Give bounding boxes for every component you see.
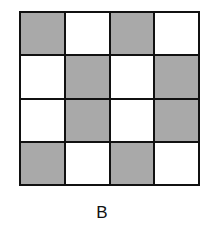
empty-cell	[155, 143, 198, 184]
empty-cell	[111, 56, 154, 97]
empty-cell	[66, 143, 109, 184]
shaded-cell	[155, 56, 198, 97]
empty-cell	[111, 100, 154, 141]
shaded-cell	[21, 13, 64, 54]
empty-cell	[21, 56, 64, 97]
shaded-cell	[66, 56, 109, 97]
shaded-cell	[111, 143, 154, 184]
shaded-cell	[155, 100, 198, 141]
empty-cell	[66, 13, 109, 54]
shaded-cell	[111, 13, 154, 54]
shaded-grid	[19, 11, 200, 186]
figure-label: B	[0, 203, 204, 223]
empty-cell	[21, 100, 64, 141]
shaded-cell	[66, 100, 109, 141]
shaded-cell	[21, 143, 64, 184]
empty-cell	[155, 13, 198, 54]
